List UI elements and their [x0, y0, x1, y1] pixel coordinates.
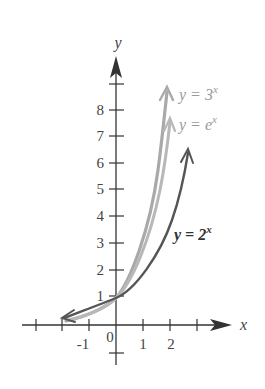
x-tick-label: 1 [139, 336, 147, 352]
x-tick-labels: -1 0 1 2 [77, 329, 175, 352]
y-tick-label: 1 [97, 288, 105, 304]
y-tick-label: 5 [97, 181, 105, 197]
curve-e-pow-x [68, 118, 175, 320]
x-tick-label: 2 [167, 336, 175, 352]
y-tick-label: 4 [97, 208, 105, 224]
y-tick-label: 8 [97, 102, 105, 118]
y-tick-label: 6 [97, 155, 105, 171]
y-tick-labels: 1 2 3 4 5 6 7 8 [97, 102, 105, 304]
x-tick-label: 0 [106, 329, 114, 345]
x-tick-label: -1 [77, 336, 90, 352]
y-tick-label: 2 [97, 262, 105, 278]
exponential-graph: -1 0 1 2 1 2 3 4 5 6 7 8 y x y = 3x y = … [0, 0, 265, 389]
x-axis-label: x [239, 316, 247, 333]
y-tick-label: 7 [97, 128, 105, 144]
label-2x: y = 2x [172, 223, 212, 244]
label-3x: y = 3x [177, 83, 218, 104]
y-tick-label: 3 [97, 235, 105, 251]
y-axis-label: y [112, 34, 122, 52]
label-ex: y = ex [177, 113, 217, 134]
